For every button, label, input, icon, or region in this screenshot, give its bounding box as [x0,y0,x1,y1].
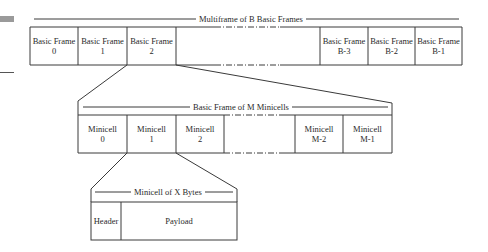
frame-index: 1 [100,46,104,56]
minicell-label: Minicell [186,124,215,134]
frame-label: Basic Frame [130,36,173,46]
minicell-index: 0 [100,134,104,144]
basic-frame-b-1: Basic Frame B-1 [415,27,462,65]
payload-label: Payload [165,216,192,226]
basic-frame-1: Basic Frame 1 [78,27,127,65]
frame-index: B-1 [432,46,445,56]
minicell-m-2: Minicell M-2 [295,115,343,153]
minicell-label: Minicell [305,124,334,134]
basic-frame-0: Basic Frame 0 [30,27,78,65]
minicell-title: Minicell of X Bytes [131,187,205,197]
frame-label: Basic Frame [417,36,460,46]
basic-frame-2: Basic Frame 2 [127,27,176,65]
basic-frame-b-3: Basic Frame B-3 [320,27,368,65]
frame-index: 2 [149,46,153,56]
basic-frame-b-2: Basic Frame B-2 [368,27,415,65]
frame-index: B-3 [338,46,351,56]
minicell-m-1: Minicell M-1 [343,115,392,153]
minicell-index: 1 [149,134,153,144]
frame-index: 0 [52,46,56,56]
header-field: Header [91,202,121,240]
minicell-index: M-2 [312,134,327,144]
minicell-label: Minicell [137,124,166,134]
minicell-label: Minicell [88,124,117,134]
minicell-2: Minicell 2 [176,115,224,153]
multiframe-title: Multiframe of B Basic Frames [196,14,306,24]
frame-index: B-2 [385,46,398,56]
frame-label: Basic Frame [323,36,366,46]
payload-field: Payload [121,202,237,240]
header-label: Header [94,216,119,226]
minicell-label: Minicell [353,124,382,134]
minicell-index: 2 [198,134,202,144]
frame-label: Basic Frame [81,36,124,46]
frame-label: Basic Frame [33,36,76,46]
frame-label: Basic Frame [370,36,413,46]
basic-frame-title: Basic Frame of M Minicells [190,102,292,112]
minicell-index: M-1 [360,134,375,144]
minicell-0: Minicell 0 [78,115,127,153]
minicell-1: Minicell 1 [127,115,176,153]
